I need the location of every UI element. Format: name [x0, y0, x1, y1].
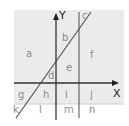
y-axis-label: Y — [58, 9, 66, 22]
region-label-l: l — [39, 104, 42, 115]
x-axis-label: X — [113, 87, 121, 100]
region-label-a: a — [26, 48, 32, 59]
region-label-h: h — [43, 89, 49, 100]
region-diagram: Y X a b c d e f g h i j k l m n — [0, 0, 129, 126]
region-label-i: i — [65, 89, 68, 100]
region-label-j: j — [89, 89, 93, 100]
region-label-f: f — [90, 49, 94, 60]
region-label-c: c — [82, 10, 88, 21]
region-label-e: e — [66, 62, 72, 73]
region-label-n: n — [89, 104, 95, 115]
region-label-d: d — [48, 70, 54, 81]
region-label-g: g — [18, 89, 24, 100]
region-label-k: k — [13, 104, 19, 115]
region-label-m: m — [64, 104, 74, 115]
region-label-b: b — [62, 32, 68, 43]
